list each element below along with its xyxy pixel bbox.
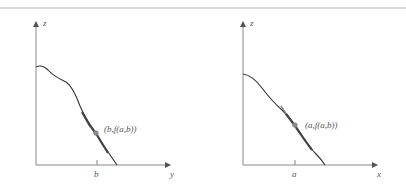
trace-curve <box>36 66 117 165</box>
point-label: (a,f(a,b)) <box>305 120 338 130</box>
z-axis-label: z <box>249 18 254 28</box>
point-marker <box>292 122 297 127</box>
tick-label-b: b <box>94 169 99 179</box>
tick-label-a: a <box>292 169 297 179</box>
z-axis-label: z <box>42 18 47 28</box>
y-axis-label: y <box>169 169 174 179</box>
left-panel: z y b (b,f(a,b)) <box>36 18 174 179</box>
point-label: (b,f(a,b)) <box>104 124 137 134</box>
x-axis-label: x <box>376 169 381 179</box>
partial-derivative-diagram: z y b (b,f(a,b)) z x a (a,f(a,b)) <box>0 0 406 188</box>
point-marker <box>93 130 98 135</box>
right-panel: z x a (a,f(a,b)) <box>243 18 381 179</box>
